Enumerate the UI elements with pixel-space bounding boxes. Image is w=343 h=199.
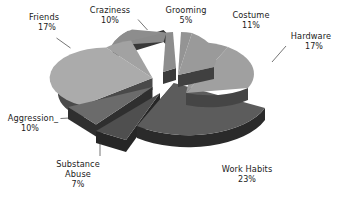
pie-chart-svg: Grooming 5% Costume 11% Hardware 17% Wor… — [0, 0, 343, 199]
leader-line-craziness — [138, 20, 148, 31]
label-costume-name: Costume — [232, 10, 269, 20]
label-aggression-name: Aggression_ — [8, 113, 59, 123]
label-grooming: Grooming 5% — [166, 5, 207, 25]
label-friends-pct: 17% — [38, 23, 56, 32]
label-work-habits: Work Habits 23% — [222, 164, 273, 184]
label-substance-name-1: Substance — [56, 159, 100, 169]
pie-chart: Grooming 5% Costume 11% Hardware 17% Wor… — [0, 0, 343, 199]
label-grooming-pct: 5% — [180, 16, 193, 25]
label-craziness-pct: 10% — [101, 16, 119, 25]
label-craziness-name: Craziness — [90, 5, 130, 15]
label-hardware: Hardware 17% — [291, 31, 331, 51]
label-substance-abuse: Substance Abuse 7% — [56, 159, 100, 189]
label-friends: Friends 17% — [29, 12, 59, 32]
leader-line-aggression — [61, 118, 70, 119]
label-aggression-pct: 10% — [21, 124, 39, 133]
label-substance-pct: 7% — [72, 180, 85, 189]
slice-costume[interactable] — [178, 32, 216, 87]
label-friends-name: Friends — [29, 12, 59, 22]
label-craziness: Craziness 10% — [90, 5, 130, 25]
leader-line-friends — [57, 38, 71, 48]
label-work-habits-name: Work Habits — [222, 164, 273, 174]
label-costume: Costume 11% — [232, 10, 269, 30]
label-aggression: Aggression_ 10% — [8, 113, 59, 133]
leader-line-hardware — [272, 46, 286, 62]
label-substance-name-2: Abuse — [65, 169, 91, 179]
label-hardware-name: Hardware — [291, 31, 331, 41]
label-grooming-name: Grooming — [166, 5, 207, 15]
label-work-habits-pct: 23% — [238, 175, 256, 184]
label-hardware-pct: 17% — [305, 42, 323, 51]
label-costume-pct: 11% — [242, 21, 260, 30]
